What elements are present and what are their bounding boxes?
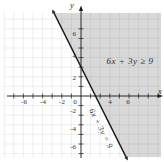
y-axis-arrow-icon [79, 6, 83, 12]
x-tick-label: -2 [55, 98, 69, 106]
y-axis-label: y [70, 0, 74, 10]
x-tick-label: 6 [121, 98, 135, 106]
y-tick-label: -4 [56, 125, 76, 133]
y-tick-label: -2 [56, 107, 76, 115]
x-tick-label: 4 [103, 98, 117, 106]
inequality-graph-figure: y x 6x + 3y ≥ 9 6x + 3y = 9 -6-4-2046642… [0, 0, 164, 162]
y-tick-label: 6 [56, 30, 76, 38]
x-tick-label: 0 [68, 98, 82, 106]
y-tick-label: -6 [56, 143, 76, 151]
plot-canvas [0, 0, 164, 162]
x-tick-label: -6 [17, 98, 31, 106]
x-tick-label: -4 [36, 98, 50, 106]
inequality-region-label: 6x + 3y ≥ 9 [98, 56, 162, 66]
x-axis-label: x [158, 86, 162, 96]
y-tick-label: 2 [56, 74, 76, 82]
y-tick-label: 4 [56, 52, 76, 60]
